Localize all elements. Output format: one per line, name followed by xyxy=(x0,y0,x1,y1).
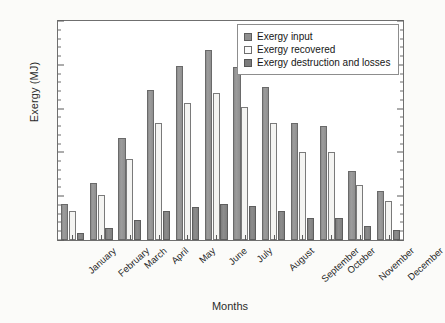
y-tick-major xyxy=(58,152,64,153)
bar-july-series-0 xyxy=(233,67,240,240)
y-tick-minor-right xyxy=(400,126,403,127)
bar-march-series-1 xyxy=(126,159,133,240)
y-tick-major-right xyxy=(397,240,403,241)
chart-legend: Exergy input Exergy recovered Exergy des… xyxy=(237,24,399,75)
bar-july-series-2 xyxy=(249,206,256,240)
x-tick-label-april: April xyxy=(169,245,190,266)
bar-april-series-1 xyxy=(155,123,162,240)
bar-march-series-2 xyxy=(134,220,141,240)
bar-august-series-1 xyxy=(270,123,277,240)
bar-september-series-2 xyxy=(307,218,314,240)
bar-june-series-2 xyxy=(220,204,227,240)
y-tick-minor xyxy=(58,143,61,144)
y-tick-minor xyxy=(58,99,61,100)
bar-november-series-0 xyxy=(348,171,355,240)
legend-label-exergy-input: Exergy input xyxy=(257,31,313,43)
y-tick-minor xyxy=(58,134,61,135)
y-tick-minor-right xyxy=(400,99,403,100)
y-tick-minor xyxy=(58,47,61,48)
bar-february-series-0 xyxy=(90,183,97,240)
x-tick xyxy=(302,235,303,240)
y-tick-minor-right xyxy=(400,134,403,135)
y-tick-minor-right xyxy=(400,187,403,188)
x-tick-label-june: June xyxy=(226,245,249,267)
bar-january-series-2 xyxy=(77,233,84,240)
y-tick-minor xyxy=(58,73,61,74)
bar-april-series-2 xyxy=(163,211,170,240)
bar-february-series-2 xyxy=(105,228,112,240)
y-tick-minor-right xyxy=(400,169,403,170)
y-tick-major xyxy=(58,21,64,22)
y-tick-major-right xyxy=(397,196,403,197)
y-tick-minor-right xyxy=(400,204,403,205)
x-tick xyxy=(72,235,73,240)
x-axis-title: Months xyxy=(55,300,405,312)
y-tick-minor-right xyxy=(400,161,403,162)
y-tick-minor-right xyxy=(400,117,403,118)
legend-item-exergy-destruction: Exergy destruction and losses xyxy=(244,56,390,69)
legend-item-exergy-recovered: Exergy recovered xyxy=(244,43,390,56)
x-tick xyxy=(216,235,217,240)
x-tick xyxy=(130,235,131,240)
legend-swatch-icon-exergy-destruction xyxy=(244,59,252,67)
bar-september-series-1 xyxy=(299,152,306,240)
x-tick xyxy=(360,235,361,240)
bar-may-series-1 xyxy=(184,103,191,240)
y-tick-minor-right xyxy=(400,213,403,214)
y-tick-major-right xyxy=(397,152,403,153)
y-tick-major-right xyxy=(397,21,403,22)
y-tick-minor xyxy=(58,187,61,188)
y-tick-major-right xyxy=(397,108,403,109)
y-tick-minor xyxy=(58,222,61,223)
bar-june-series-0 xyxy=(205,50,212,240)
x-tick-label-january: January xyxy=(86,245,118,276)
bar-october-series-1 xyxy=(328,152,335,240)
bar-april-series-0 xyxy=(147,90,154,240)
bar-january-series-0 xyxy=(61,204,68,240)
y-tick-minor-right xyxy=(400,231,403,232)
bar-october-series-2 xyxy=(335,218,342,240)
y-tick-minor xyxy=(58,213,61,214)
bar-december-series-0 xyxy=(377,191,384,240)
x-tick xyxy=(389,235,390,240)
x-tick xyxy=(159,235,160,240)
y-tick-minor xyxy=(58,204,61,205)
legend-swatch-icon-exergy-input xyxy=(244,33,252,41)
y-tick-minor xyxy=(58,38,61,39)
x-tick xyxy=(274,235,275,240)
x-tick xyxy=(187,235,188,240)
y-tick-minor xyxy=(58,161,61,162)
y-axis-title: Exergy (MJ) xyxy=(28,22,40,162)
bar-july-series-1 xyxy=(241,107,248,240)
x-tick-label-august: August xyxy=(286,245,315,273)
legend-swatch-icon-exergy-recovered xyxy=(244,46,252,54)
y-tick-minor xyxy=(58,29,61,30)
bar-november-series-2 xyxy=(364,226,371,240)
y-tick-minor-right xyxy=(400,73,403,74)
y-tick-minor xyxy=(58,56,61,57)
y-tick-minor-right xyxy=(400,47,403,48)
y-tick-minor xyxy=(58,178,61,179)
x-tick-label-may: May xyxy=(197,245,218,265)
bar-may-series-2 xyxy=(192,207,199,240)
bar-august-series-2 xyxy=(278,211,285,240)
legend-label-exergy-recovered: Exergy recovered xyxy=(257,44,335,56)
y-tick-minor-right xyxy=(400,82,403,83)
y-tick-major xyxy=(58,196,64,197)
y-tick-minor-right xyxy=(400,56,403,57)
x-tick-label-july: July xyxy=(254,245,274,264)
y-tick-minor-right xyxy=(400,222,403,223)
y-tick-minor xyxy=(58,231,61,232)
y-tick-minor xyxy=(58,169,61,170)
legend-item-exergy-input: Exergy input xyxy=(244,30,390,43)
y-tick-minor xyxy=(58,91,61,92)
y-tick-major xyxy=(58,240,64,241)
x-tick xyxy=(101,235,102,240)
bar-september-series-0 xyxy=(291,123,298,240)
y-tick-minor xyxy=(58,117,61,118)
y-tick-minor-right xyxy=(400,38,403,39)
y-tick-minor xyxy=(58,126,61,127)
x-tick xyxy=(245,235,246,240)
y-tick-minor xyxy=(58,82,61,83)
